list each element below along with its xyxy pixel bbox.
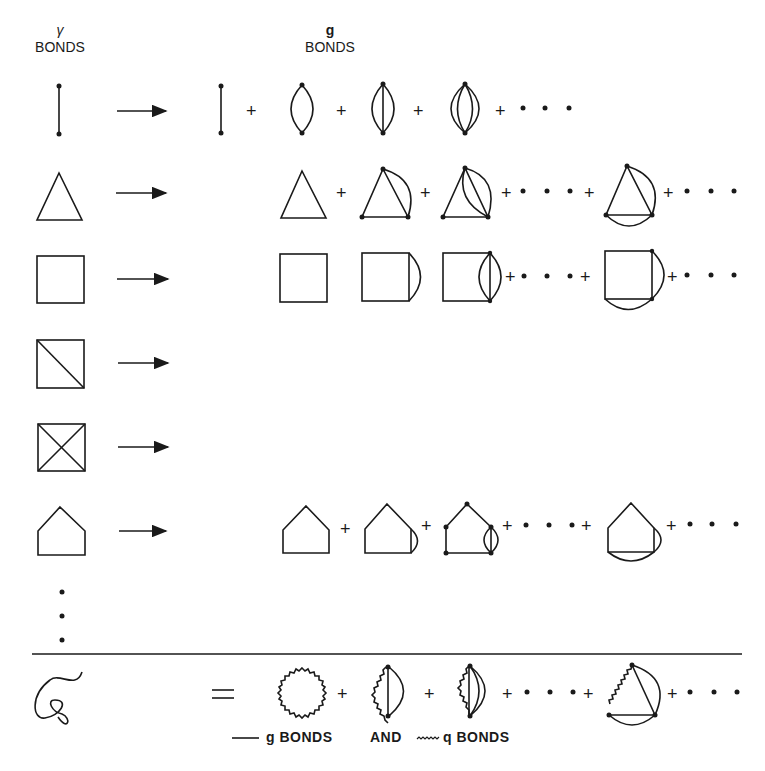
row-square-cross: [38, 424, 168, 471]
plus-sign: +: [502, 516, 513, 536]
row-single-bond: + + + +: [57, 82, 572, 137]
plus-sign: +: [501, 183, 512, 203]
cluster-diagram-canvas: + + + + + +: [0, 0, 765, 771]
plus-sign: +: [340, 519, 351, 539]
rhs-square: [280, 254, 327, 302]
wavy-triangle: [607, 663, 661, 726]
plus-sign: +: [420, 183, 431, 203]
plus-sign: +: [667, 267, 678, 287]
plus-sign: +: [336, 101, 347, 121]
rhs-triangle: [281, 171, 326, 218]
legend-q-bonds: q BONDS: [443, 729, 510, 745]
rhs-pentagon: [283, 506, 329, 553]
row-triangle: + + + + +: [37, 164, 737, 227]
plus-sign: +: [421, 516, 432, 536]
square-two-arcs: [443, 251, 501, 303]
rhs-line: [219, 84, 224, 136]
square-two-arcs-on-sides: [605, 249, 664, 310]
legend-and: AND: [370, 729, 402, 745]
triangle-one-arc: [360, 167, 411, 220]
plus-sign: +: [337, 684, 348, 704]
lhs-triangle: [37, 173, 82, 220]
plus-sign: +: [663, 183, 674, 203]
lhs-square: [37, 256, 84, 303]
ellipsis-dots: [525, 690, 576, 695]
lens-four-bonds: [451, 82, 479, 136]
pentagon-two-arcs-on-sides: [608, 503, 661, 561]
row-square-diagonal: [37, 340, 168, 388]
triangle-two-arcs: [441, 166, 492, 220]
squiggle-s-symbol: [35, 672, 82, 724]
row-pentagon: + + + + +: [38, 502, 739, 562]
wavy-lens-one-line: [372, 665, 404, 724]
square-one-arc: [362, 253, 421, 301]
plus-sign: +: [413, 101, 424, 121]
legend-g-bonds-label: g BONDS: [266, 729, 333, 745]
lhs-square-one-diagonal: [37, 340, 84, 388]
ellipsis-dots: [524, 523, 575, 528]
legend-and-label: AND: [370, 729, 402, 745]
ellipsis-dots: [688, 690, 740, 695]
plus-sign: +: [584, 183, 595, 203]
legend-q-bonds-label: q BONDS: [443, 729, 510, 745]
plus-sign: +: [502, 684, 513, 704]
triangle-two-arcs-on-sides: [604, 164, 656, 227]
legend-q-bond-wavy-icon: [417, 737, 439, 739]
lhs-line: [57, 84, 62, 137]
wavy-lens-two-lines: [458, 664, 485, 719]
equals-sign: [212, 690, 234, 698]
pentagon-one-arc: [365, 504, 418, 553]
wavy-ring: [278, 668, 326, 718]
ellipsis-dots: [522, 274, 573, 279]
lens-two-bonds: [291, 83, 313, 136]
ellipsis-dots: [688, 522, 739, 527]
plus-sign: +: [581, 516, 592, 536]
pentagon-two-arcs: [444, 502, 499, 556]
plus-sign: +: [580, 267, 591, 287]
lhs-pentagon: [38, 507, 85, 555]
ellipsis-dots: [685, 189, 737, 194]
plus-sign: +: [495, 101, 506, 121]
plus-sign: +: [667, 684, 678, 704]
lhs-square-two-diagonals: [38, 424, 85, 471]
lens-three-bonds: [372, 82, 394, 136]
plus-sign: +: [424, 684, 435, 704]
ellipsis-dots: [521, 189, 573, 194]
row-gamma-sum: + + + + +: [35, 663, 739, 726]
vertical-ellipsis: [60, 590, 65, 643]
plus-sign: +: [583, 684, 594, 704]
plus-sign: +: [336, 183, 347, 203]
plus-sign: +: [505, 267, 516, 287]
plus-sign: +: [666, 516, 677, 536]
legend-g-bonds: g BONDS: [266, 729, 333, 745]
plus-sign: +: [246, 101, 257, 121]
ellipsis-dots: [685, 273, 737, 278]
row-square: + + +: [37, 249, 737, 310]
ellipsis-dots: [521, 106, 572, 111]
